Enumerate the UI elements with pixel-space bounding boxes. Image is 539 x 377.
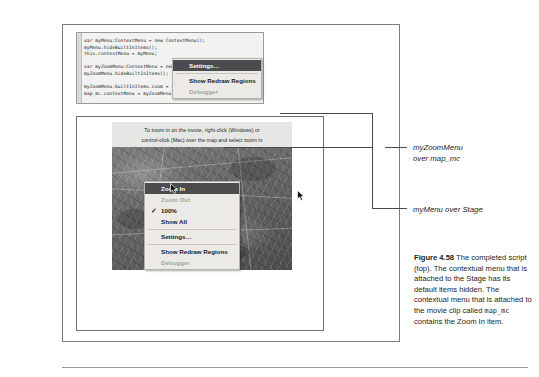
annotation-line-1: myMenu over Stage: [413, 204, 533, 215]
leader-line-zoom-horizontal: [225, 147, 373, 148]
caption-text-part-3: contains the Zoom In item.: [414, 317, 503, 326]
code-line-2: this.contextMenu = myMenu;: [84, 51, 257, 58]
code-gutter: [77, 33, 82, 103]
leader-line-zoom-vertical: [372, 113, 373, 148]
leader-line-zoom-top: [280, 113, 373, 114]
menu-item-zoom-in[interactable]: Zoom In: [145, 183, 239, 194]
menu-item-show-redraw-regions[interactable]: Show Redraw Regions: [173, 75, 261, 86]
context-menu-mymenu[interactable]: Settings… Show Redraw Regions Debugger: [172, 58, 262, 99]
menu-separator: [148, 244, 236, 245]
annotation-line-1: myZoomMenu: [413, 142, 533, 153]
flash-movie: To zoom in on the movie, right-click (Wi…: [112, 122, 292, 270]
instruction-line-2: control-click (Mac) over the map and sel…: [112, 136, 292, 146]
menu-item-label: Show Redraw Regions: [189, 77, 256, 84]
menu-item-label: 100%: [161, 207, 177, 214]
annotation-line-2: over map_mc: [413, 153, 533, 164]
menu-item-label: Debugger: [161, 259, 190, 266]
page-bottom-rule: [62, 367, 528, 368]
movie-instruction-text: To zoom in on the movie, right-click (Wi…: [112, 122, 292, 147]
checkmark-icon: ✓: [151, 205, 157, 216]
menu-item-settings[interactable]: Settings…: [173, 60, 261, 71]
figure-number: Figure 4.58: [414, 253, 454, 262]
figure-page: var myMenu:ContextMenu = new ContextMenu…: [0, 0, 539, 377]
figure-caption: Figure 4.58 The completed script (top). …: [414, 253, 534, 327]
menu-item-show-all[interactable]: Show All: [145, 216, 239, 227]
menu-item-100-percent[interactable]: ✓ 100%: [145, 205, 239, 216]
menu-item-label: Settings…: [189, 62, 220, 69]
caption-text-part-2: movie clip called: [427, 306, 485, 315]
menu-item-label: Show Redraw Regions: [161, 248, 228, 255]
menu-item-label: Settings…: [161, 233, 192, 240]
menu-item-label: Zoom Out: [161, 196, 190, 203]
leader-line-stage-horizontal: [372, 208, 385, 209]
menu-item-settings[interactable]: Settings…: [145, 231, 239, 242]
map-shading: [230, 157, 276, 181]
instruction-line-1: To zoom in on the movie, right-click (Wi…: [112, 126, 292, 136]
leader-line-zoom-tail: [385, 147, 407, 148]
menu-separator: [148, 229, 236, 230]
menu-separator: [176, 73, 258, 74]
menu-item-zoom-out: Zoom Out: [145, 194, 239, 205]
leader-line-stage-tail: [385, 208, 407, 209]
context-menu-myzoommenu[interactable]: Zoom In Zoom Out ✓ 100% Show All Setting…: [144, 181, 240, 270]
menu-item-label: Show All: [161, 218, 187, 225]
code-line-0: var myMenu:ContextMenu = new ContextMenu…: [84, 38, 257, 45]
caption-mono-term: map_mc: [485, 307, 510, 315]
menu-item-debugger: Debugger: [173, 86, 261, 97]
menu-item-label: Zoom In: [161, 185, 185, 192]
menu-item-label: Debugger: [189, 88, 218, 95]
menu-item-show-redraw-regions[interactable]: Show Redraw Regions: [145, 246, 239, 257]
leader-line-stage-vertical: [372, 147, 373, 209]
annotation-mymenu: myMenu over Stage: [413, 204, 533, 215]
annotation-myzoommenu: myZoomMenu over map_mc: [413, 142, 533, 164]
menu-item-debugger: Debugger: [145, 257, 239, 268]
code-line-1: myMenu.hideBuiltInItems();: [84, 45, 257, 52]
